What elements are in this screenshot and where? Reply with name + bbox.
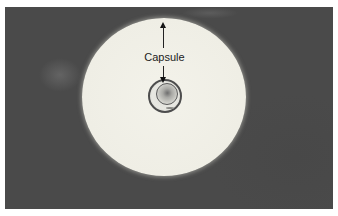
- yeast-cell-body: [156, 83, 178, 105]
- arrow-down-icon: [160, 77, 166, 83]
- cell-bud-mark: [166, 107, 174, 109]
- capsule-label: Capsule: [142, 51, 187, 64]
- arrow-up-line: [163, 25, 164, 48]
